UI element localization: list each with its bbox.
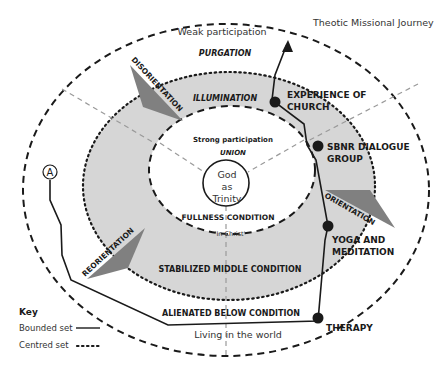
diagram-title: Theotic Missional Journey bbox=[312, 17, 434, 28]
fullness-condition-label: FULLNESS CONDITION bbox=[182, 213, 275, 222]
strong-participation-label: Strong participation bbox=[193, 136, 273, 144]
point-yoga bbox=[323, 221, 334, 232]
living-in-world-label: Living in the world bbox=[194, 329, 282, 340]
union-label: UNION bbox=[220, 149, 246, 157]
therapy-label: THERAPY bbox=[326, 323, 373, 333]
illumination-label: ILLUMINATION bbox=[193, 94, 258, 103]
trinity-label: Trinity bbox=[212, 193, 242, 204]
stabilized-middle-condition-label: STABILIZED MIDDLE CONDITION bbox=[158, 265, 301, 274]
as-label: as bbox=[222, 181, 233, 192]
point-church bbox=[270, 97, 281, 108]
alienated-below-condition-label: ALIENATED BELOW CONDITION bbox=[162, 309, 300, 318]
yoga-label-line1: YOGA AND bbox=[331, 235, 385, 245]
church-label-line2: CHURCH bbox=[287, 102, 330, 112]
sbnr-label-line2: GROUP bbox=[327, 154, 363, 164]
yoga-label-line2: MEDITATION bbox=[332, 247, 394, 257]
point-therapy bbox=[313, 313, 324, 324]
key-bounded-label: Bounded set bbox=[19, 323, 73, 333]
start-marker-label: A bbox=[47, 167, 54, 178]
weak-participation-label: Weak participation bbox=[177, 26, 266, 37]
sbnr-label-line1: SBNR DIALOGUE bbox=[327, 142, 410, 152]
in-christ-label: 'In Christ' bbox=[215, 230, 246, 238]
point-sbnr bbox=[313, 141, 324, 152]
god-label: God bbox=[217, 169, 236, 180]
purgation-label: PURGATION bbox=[199, 49, 252, 58]
key-title: Key bbox=[19, 307, 38, 317]
key-centred-label: Centred set bbox=[19, 340, 69, 350]
theotic-journey-diagram: A Theotic Missional Journey Weak partici… bbox=[0, 0, 443, 367]
church-label-line1: EXPERIENCE OF bbox=[287, 90, 366, 100]
